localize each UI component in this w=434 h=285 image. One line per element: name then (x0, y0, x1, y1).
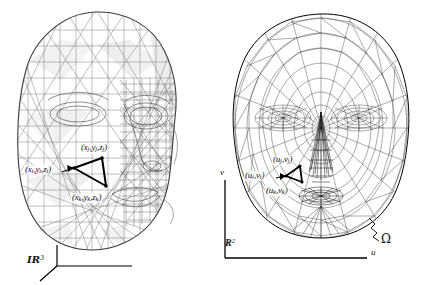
label-vertex-i-3d: (xi,yi,zi) (24, 165, 52, 175)
label-domain-omega: Ω (380, 233, 392, 245)
param-mesh-features (255, 105, 387, 238)
label-vertex-k-2d: (uk,vk) (265, 186, 289, 196)
label-vertex-k-3d: (xk,yk,zk) (71, 193, 102, 203)
label-axis-v: v (219, 168, 225, 177)
right-mesh-graphic (217, 0, 434, 285)
omega-leader-line (369, 218, 379, 241)
label-vertex-j-3d: (xj,yj,zj) (80, 143, 108, 153)
label-axis-u: u (370, 248, 377, 257)
left-mesh-graphic (0, 0, 217, 285)
highlighted-triangle-2d (284, 164, 303, 183)
label-vertex-j-2d: (uj,vj) (272, 155, 293, 165)
label-space-r3: IR3 (26, 255, 45, 265)
left-panel-3d-mesh: (xj,yj,zj) (xi,yi,zi) (xk,yk,zk) IR3 (0, 0, 217, 285)
figure-canvas: (xj,yj,zj) (xi,yi,zi) (xk,yk,zk) IR3 (0, 0, 434, 285)
label-vertex-i-2d: (ui,vi) (244, 171, 265, 181)
axis-triad-3d (40, 245, 132, 281)
label-space-r2: R2 (224, 238, 236, 248)
right-panel-2d-mesh: (uj,vj) (ui,vi) (uk,vk) v u Ω R2 (217, 0, 434, 285)
